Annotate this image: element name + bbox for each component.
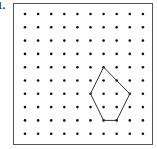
grid-dot (142, 93, 145, 96)
grid-dot (102, 39, 105, 42)
grid-dot (129, 39, 132, 42)
grid-dot (76, 13, 79, 16)
grid-dot (63, 13, 66, 16)
grid-dot (24, 93, 27, 96)
grid-dot (142, 39, 145, 42)
grid-dot (76, 93, 79, 96)
grid-dot (115, 93, 118, 96)
grid-dot (63, 119, 66, 122)
grid-dot (63, 93, 66, 96)
grid-dot (129, 13, 132, 16)
grid-dot (142, 53, 145, 56)
grid-dot (37, 66, 40, 69)
grid-dot (89, 26, 92, 29)
grid-dot (129, 26, 132, 29)
grid-dot (142, 66, 145, 69)
grid-dot (50, 79, 53, 82)
grid-dots (24, 13, 145, 135)
grid-dot (129, 79, 132, 82)
grid-dot (129, 53, 132, 56)
grid-dot (37, 79, 40, 82)
grid-dot (76, 79, 79, 82)
grid-dot (50, 119, 53, 122)
grid-dot (89, 13, 92, 16)
grid-dot (102, 93, 105, 96)
grid-dot (63, 132, 66, 135)
grid-dot (142, 106, 145, 109)
grid-dot (102, 79, 105, 82)
grid-dot (102, 132, 105, 135)
grid-dot (129, 119, 132, 122)
grid-dot (63, 79, 66, 82)
grid-dot (142, 13, 145, 16)
grid-dot (115, 53, 118, 56)
grid-dot (89, 66, 92, 69)
grid-dot (89, 39, 92, 42)
grid-dot (89, 53, 92, 56)
grid-dot (115, 66, 118, 69)
pentagon-shape (91, 67, 130, 120)
grid-dot (37, 39, 40, 42)
grid-dot (115, 132, 118, 135)
grid-dot (76, 26, 79, 29)
grid-dot (115, 26, 118, 29)
grid-dot (50, 93, 53, 96)
grid-dot (50, 53, 53, 56)
grid-dot (76, 119, 79, 122)
grid-dot (24, 39, 27, 42)
grid-dot (102, 106, 105, 109)
grid-dot (37, 119, 40, 122)
grid-dot (102, 53, 105, 56)
dot-grid (0, 0, 157, 149)
grid-dot (50, 13, 53, 16)
grid-dot (24, 132, 27, 135)
grid-dot (142, 26, 145, 29)
grid-dot (24, 79, 27, 82)
grid-dot (142, 119, 145, 122)
grid-dot (24, 66, 27, 69)
grid-dot (142, 79, 145, 82)
grid-dot (76, 66, 79, 69)
grid-dot (142, 132, 145, 135)
grid-dot (89, 119, 92, 122)
grid-dot (24, 13, 27, 16)
grid-dot (89, 106, 92, 109)
grid-dot (89, 79, 92, 82)
grid-dot (76, 132, 79, 135)
grid-dot (115, 106, 118, 109)
grid-dot (129, 66, 132, 69)
grid-dot (24, 53, 27, 56)
grid-dot (63, 39, 66, 42)
grid-dot (50, 132, 53, 135)
grid-dot (63, 26, 66, 29)
grid-dot (102, 13, 105, 16)
grid-dot (102, 26, 105, 29)
grid-dot (37, 106, 40, 109)
grid-dot (89, 132, 92, 135)
grid-dot (50, 39, 53, 42)
grid-dot (37, 53, 40, 56)
grid-dot (115, 13, 118, 16)
grid-dot (24, 106, 27, 109)
grid-dot (129, 132, 132, 135)
grid-dot (37, 93, 40, 96)
grid-dot (24, 26, 27, 29)
grid-dot (37, 132, 40, 135)
grid-dot (24, 119, 27, 122)
grid-dot (63, 66, 66, 69)
grid-dot (76, 39, 79, 42)
grid-dot (76, 106, 79, 109)
grid-dot (76, 53, 79, 56)
grid-dot (115, 39, 118, 42)
grid-dot (37, 26, 40, 29)
grid-dot (50, 26, 53, 29)
grid-dot (129, 106, 132, 109)
grid-dot (63, 106, 66, 109)
grid-dot (50, 66, 53, 69)
grid-dot (63, 53, 66, 56)
grid-dot (50, 106, 53, 109)
grid-dot (37, 13, 40, 16)
